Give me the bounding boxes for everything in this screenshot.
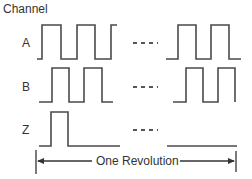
channel-b-waveform-left bbox=[39, 68, 113, 102]
channel-b-label: B bbox=[22, 80, 30, 94]
one-revolution-label: One Revolution bbox=[96, 154, 179, 168]
channel-z-waveform-left bbox=[39, 112, 120, 146]
channel-a-waveform-right bbox=[166, 25, 241, 59]
channel-z-label: Z bbox=[22, 123, 29, 137]
channel-a-waveform-left bbox=[37, 25, 117, 59]
arrow-left-icon bbox=[37, 158, 44, 164]
channel-a-label: A bbox=[22, 36, 30, 50]
channel-title: Channel bbox=[3, 2, 48, 16]
encoder-signal-diagram: Channel A B Z One Revolution bbox=[0, 0, 252, 179]
arrow-right-icon bbox=[228, 158, 235, 164]
channel-b-waveform-right bbox=[173, 68, 235, 102]
